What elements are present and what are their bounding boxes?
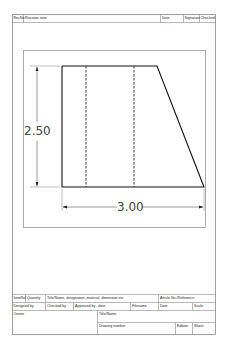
title-name-label: Title/Name <box>99 313 116 317</box>
date-header: Date <box>162 17 170 21</box>
rev-no-header: RevNo <box>14 17 25 21</box>
filename-label: Filename <box>132 305 147 309</box>
checked-header: Checked <box>201 17 215 21</box>
sheet-label: Sheet <box>194 325 203 329</box>
view-frame <box>24 51 206 228</box>
title-designation-label: Title/Name, designation, material, dimen… <box>47 297 124 301</box>
edition-label: Edition <box>177 325 188 329</box>
width-dimension-label: 3.00 <box>117 201 144 213</box>
article-no-label: Article No./Reference <box>160 297 194 301</box>
outer-frame <box>13 15 216 335</box>
owner-label: Owner <box>14 313 25 317</box>
item-ref-label: ItemRef <box>14 297 27 301</box>
checked-by-label: Checked by <box>47 305 66 309</box>
scale-label: Scale <box>194 305 203 309</box>
drawing-number-label: Drawing number <box>99 325 125 329</box>
quantity-label: Quantity <box>27 297 40 301</box>
height-dimension-label: 2.50 <box>24 125 51 137</box>
drawing-sheet: 2.50 3.00 RevNo Revision note Date Signa… <box>0 0 228 349</box>
part-outline <box>62 66 204 187</box>
date-label: Date <box>160 305 168 309</box>
signature-header: Signature <box>185 17 200 21</box>
approved-by-label: Approved by - date <box>75 305 105 309</box>
revision-note-header: Revision note <box>25 17 47 21</box>
designed-by-label: Designed by <box>14 305 34 309</box>
